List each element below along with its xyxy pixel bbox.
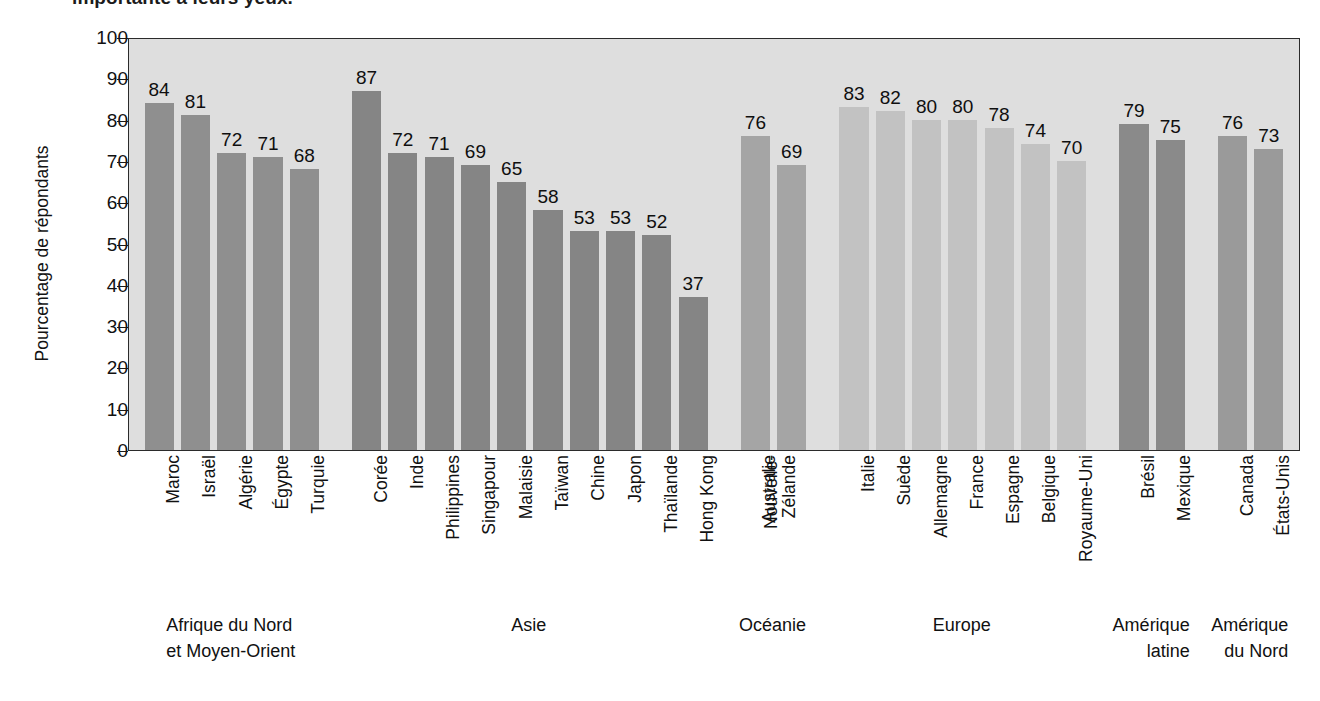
x-axis-country-label: Inde [409, 455, 427, 489]
bar: 69 [777, 165, 806, 450]
y-axis-title: Pourcentage de répondants [32, 44, 53, 464]
x-axis-country-label: Italie [860, 455, 878, 492]
x-axis-country-label: Suède [896, 455, 914, 506]
bar: 75 [1156, 140, 1185, 450]
bar-value-label: 80 [952, 97, 973, 116]
x-axis-country-label: Turquie [310, 455, 328, 514]
bar: 37 [679, 297, 708, 450]
bar: 72 [388, 153, 417, 450]
plot-area: 8481727168877271696558535352377669838280… [128, 38, 1300, 451]
bar: 72 [217, 153, 246, 450]
x-axis-country-label: Canada [1239, 455, 1257, 516]
bar: 76 [1218, 136, 1247, 450]
bar-value-label: 53 [574, 208, 595, 227]
region-label: Océanie [739, 612, 806, 638]
caption-clipped: importante à leurs yeux. [72, 0, 592, 10]
x-axis-country-label: Taïwan [554, 455, 572, 510]
x-axis-country-label: Brésil [1140, 455, 1158, 499]
x-axis-country-label: Nouvelle-Zélande [763, 455, 798, 529]
y-tick-mark [117, 203, 128, 204]
y-tick-mark [117, 410, 128, 411]
bar: 69 [461, 165, 490, 450]
bar-value-label: 69 [781, 142, 802, 161]
y-tick-mark [117, 327, 128, 328]
bar-value-label: 87 [356, 68, 377, 87]
bar-value-label: 74 [1025, 121, 1046, 140]
bar-value-label: 72 [392, 130, 413, 149]
bar: 83 [839, 107, 868, 450]
bar: 78 [985, 128, 1014, 450]
x-axis-country-label: Singapour [481, 455, 499, 535]
x-axis-country-label: Israël [201, 455, 219, 498]
bar-chart-figure: importante à leurs yeux. Pourcentage de … [0, 0, 1320, 701]
bar: 82 [876, 111, 905, 450]
bar-value-label: 78 [989, 105, 1010, 124]
region-label: Asie [511, 612, 546, 638]
bar: 53 [570, 231, 599, 450]
y-tick-mark [117, 38, 128, 39]
bar-value-label: 72 [221, 130, 242, 149]
bar: 53 [606, 231, 635, 450]
x-axis-country-label: Malaisie [518, 455, 536, 519]
bar: 80 [912, 120, 941, 450]
x-axis-country-label: Philippines [445, 455, 463, 540]
y-tick-mark [117, 451, 128, 452]
x-axis-country-label: Allemagne [933, 455, 951, 538]
region-label: Afrique du Nordet Moyen-Orient [166, 612, 295, 664]
bar: 58 [533, 210, 562, 450]
bar: 81 [181, 115, 210, 450]
x-axis-country-label: France [969, 455, 987, 509]
x-axis-country-label: Mexique [1176, 455, 1194, 521]
bar: 71 [425, 157, 454, 450]
x-axis-country-label: Espagne [1005, 455, 1023, 524]
bar: 71 [253, 157, 282, 450]
bars-container: 8481727168877271696558535352377669838280… [129, 39, 1299, 450]
bar-value-label: 80 [916, 97, 937, 116]
x-axis-country-label: Maroc [165, 455, 183, 504]
bar-value-label: 71 [257, 134, 278, 153]
bar-value-label: 69 [465, 142, 486, 161]
region-label: Amériquedu Nord [1211, 612, 1288, 664]
bar: 74 [1021, 144, 1050, 450]
bar-value-label: 70 [1061, 138, 1082, 157]
bar-value-label: 65 [501, 159, 522, 178]
region-group-labels: Afrique du Nordet Moyen-OrientAsieOcéani… [128, 612, 1300, 682]
x-axis-country-label: Corée [373, 455, 391, 503]
region-label: Amériquelatine [1113, 612, 1190, 664]
bar-value-label: 68 [294, 146, 315, 165]
bar-value-label: 82 [880, 88, 901, 107]
x-axis-country-label: Japon [627, 455, 645, 503]
bar: 73 [1254, 149, 1283, 450]
x-axis-country-label: Thaïlande [663, 455, 681, 533]
y-tick-mark [117, 368, 128, 369]
x-axis-country-label: Hong Kong [699, 455, 717, 543]
y-tick-mark [117, 121, 128, 122]
bar-value-label: 53 [610, 208, 631, 227]
bar: 87 [352, 91, 381, 450]
bar-value-label: 75 [1160, 117, 1181, 136]
bar-value-label: 37 [683, 274, 704, 293]
y-tick-mark [117, 162, 128, 163]
bar: 52 [642, 235, 671, 450]
x-axis-country-label: Royaume-Uni [1078, 455, 1096, 562]
bar-value-label: 76 [745, 113, 766, 132]
bar: 68 [290, 169, 319, 450]
y-tick-mark [117, 79, 128, 80]
bar-value-label: 52 [646, 212, 667, 231]
x-axis-country-label: États-Unis [1275, 455, 1293, 536]
bar-value-label: 83 [843, 84, 864, 103]
x-axis-country-label: Égypte [274, 455, 292, 509]
x-axis-country-label: Belgique [1041, 455, 1059, 523]
bar: 80 [948, 120, 977, 450]
region-label: Europe [933, 612, 991, 638]
bar-value-label: 79 [1123, 101, 1144, 120]
x-axis-labels: MarocIsraëlAlgérieÉgypteTurquieCoréeInde… [128, 455, 1300, 605]
bar-value-label: 73 [1258, 126, 1279, 145]
bar: 84 [145, 103, 174, 450]
bar-value-label: 58 [537, 187, 558, 206]
y-tick-mark [117, 286, 128, 287]
bar: 65 [497, 182, 526, 450]
bar: 79 [1119, 124, 1148, 450]
caption-text: importante à leurs yeux. [72, 0, 592, 10]
x-axis-country-label: Chine [590, 455, 608, 501]
